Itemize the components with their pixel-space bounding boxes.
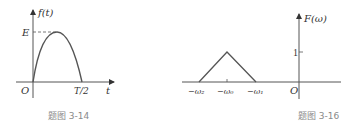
caption-3-14: 题图 3-14: [48, 111, 90, 121]
right-neg-omega0-label: −ω₀: [217, 87, 234, 96]
left-t-half-label: T/2: [74, 86, 89, 96]
figure-3-16: F(ω) 1 −ω₂ −ω₀ −ω₁ O 题图 3-16: [182, 13, 341, 121]
right-y-axis-label: F(ω): [303, 13, 327, 24]
right-origin-label: O: [290, 85, 298, 96]
right-one-label: 1: [293, 47, 298, 58]
right-triangle-spectrum: [199, 52, 256, 82]
diagram-canvas: f(t) E O T/2 t 题图 3-14 F(ω) 1 −ω₂ −ω₀ −ω…: [0, 0, 341, 127]
left-y-axis-label: f(t): [37, 7, 54, 18]
figure-3-14: f(t) E O T/2 t 题图 3-14: [16, 7, 114, 121]
right-neg-omega1-label: −ω₁: [247, 87, 263, 96]
left-e-label: E: [21, 27, 30, 38]
right-neg-omega2-label: −ω₂: [188, 87, 204, 96]
left-origin-label: O: [21, 85, 29, 96]
left-x-axis-label: t: [106, 85, 111, 96]
caption-3-16: 题图 3-16: [298, 111, 340, 121]
left-pulse-curve: [33, 32, 82, 82]
